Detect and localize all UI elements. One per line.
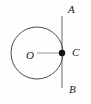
point-c-marker: [59, 50, 65, 56]
label-a: A: [68, 4, 75, 15]
label-c: C: [72, 47, 79, 58]
geometry-figure: A C B O: [0, 0, 91, 104]
label-o: O: [26, 50, 34, 61]
label-b: B: [69, 84, 76, 95]
